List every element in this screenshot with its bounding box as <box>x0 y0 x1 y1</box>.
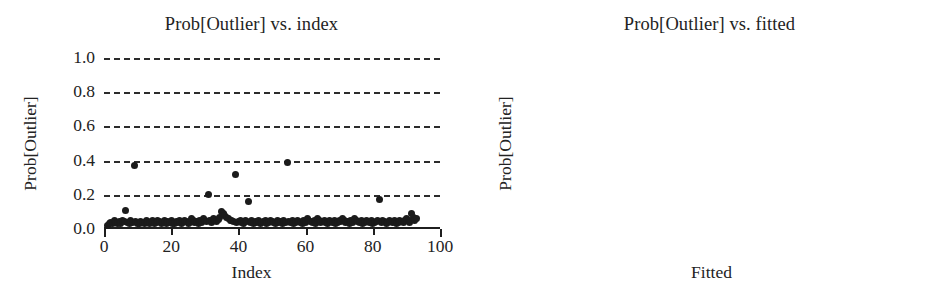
gridline-y <box>104 92 440 94</box>
figure-container: Prob[Outlier] vs. index Prob[Outlier] 0.… <box>0 0 930 303</box>
gridline-y <box>104 126 440 128</box>
y-axis-label-left-text: Prob[Outlier] <box>20 96 41 190</box>
x-tick-label: 80 <box>364 238 382 256</box>
chart-title-right: Prob[Outlier] vs. fitted <box>465 14 930 35</box>
x-tick-mark <box>171 229 173 235</box>
x-tick-mark <box>238 229 240 235</box>
y-axis-label-left: Prob[Outlier] <box>14 48 46 238</box>
data-point <box>131 162 138 169</box>
data-point <box>376 196 383 203</box>
y-tick-label: 0.0 <box>73 220 95 238</box>
data-point <box>122 207 129 214</box>
y-tick-label: 0.8 <box>73 83 95 101</box>
x-tick-label: 0 <box>100 238 109 256</box>
x-tick-label: 100 <box>427 238 453 256</box>
y-axis-label-right-text: Prob[Outlier] <box>495 96 516 190</box>
plot-area-left: 0.00.20.40.60.81.0020406080100 <box>104 58 440 229</box>
x-tick-mark <box>373 229 375 235</box>
x-tick-label: 20 <box>162 238 180 256</box>
x-axis-label-right: Fitted <box>465 262 930 283</box>
gridline-y <box>104 195 440 197</box>
gridline-y <box>104 161 440 163</box>
y-tick-label: 0.2 <box>73 186 95 204</box>
data-point <box>232 171 239 178</box>
data-point <box>413 215 420 222</box>
x-tick-mark <box>306 229 308 235</box>
chart-title-left: Prob[Outlier] vs. index <box>0 14 465 35</box>
chart-panel-fitted: Prob[Outlier] vs. fitted Prob[Outlier] 0… <box>465 0 930 303</box>
gridline-y <box>104 58 440 60</box>
x-axis-label-left: Index <box>0 262 465 283</box>
x-axis-line-left <box>104 227 440 229</box>
chart-panel-index: Prob[Outlier] vs. index Prob[Outlier] 0.… <box>0 0 465 303</box>
data-point <box>284 159 291 166</box>
y-tick-label: 0.4 <box>73 152 95 170</box>
y-tick-label: 0.6 <box>73 117 95 135</box>
x-tick-label: 60 <box>297 238 315 256</box>
data-point <box>245 198 252 205</box>
x-tick-label: 40 <box>230 238 248 256</box>
y-axis-label-right: Prob[Outlier] <box>489 48 521 238</box>
y-tick-label: 1.0 <box>73 49 95 67</box>
data-point <box>205 191 212 198</box>
